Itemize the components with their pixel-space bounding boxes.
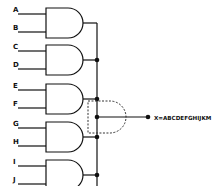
and-gate-body: [46, 122, 83, 152]
input-label-c: C: [13, 43, 18, 51]
and-gate-5: IJ: [12, 158, 99, 186]
input-label-a: A: [13, 6, 19, 14]
input-label-i: I: [13, 158, 16, 166]
and-gate-3: EF: [13, 82, 99, 114]
and-gate-body: [46, 160, 83, 186]
and-gate-2: CD: [13, 43, 99, 75]
input-label-d: D: [13, 61, 19, 69]
input-label-b: B: [13, 24, 18, 32]
and-gate-body: [46, 45, 83, 75]
input-label-f: F: [13, 100, 18, 108]
and-gate-body: [46, 84, 83, 114]
output-label: X=ABCDEFGHIJKM: [154, 115, 212, 122]
and-gate-4: GH: [13, 120, 99, 152]
and-gate-1: AB: [13, 6, 97, 38]
input-label-j: J: [12, 176, 16, 184]
output-terminal-dot: [146, 115, 151, 120]
input-label-h: H: [13, 138, 19, 146]
logic-diagram: ABCDEFGHIJ X=ABCDEFGHIJKM: [0, 0, 224, 186]
and-gate-body: [46, 8, 83, 38]
input-label-e: E: [13, 82, 18, 90]
input-label-g: G: [13, 120, 19, 128]
